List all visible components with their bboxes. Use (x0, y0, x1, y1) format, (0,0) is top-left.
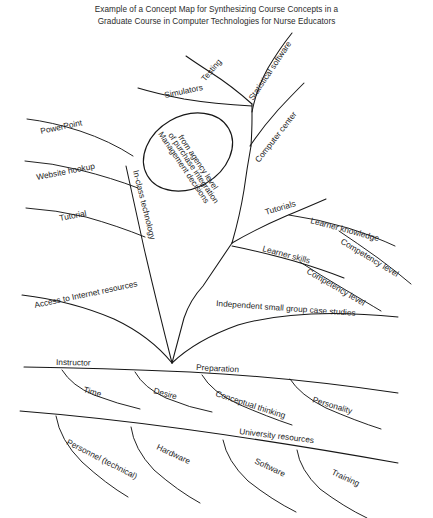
branch-label-personality[interactable]: Personality (311, 394, 354, 416)
branch-label-testing[interactable]: Testing (199, 56, 224, 83)
concept-map-canvas: Management decisions of purchase integra… (0, 0, 433, 518)
branch-group-bottom: University resources Personnel (technica… (20, 411, 398, 518)
branch-group-lower: Instructor Preparation Time Desire Conce… (24, 357, 398, 429)
branch-label-independent-case-studies[interactable]: Independent small group case studies (216, 298, 356, 318)
branch-label-tutorial[interactable]: Tutorial (58, 208, 87, 223)
branch-label-time[interactable]: Time (82, 384, 103, 399)
branch-line-software[interactable] (223, 440, 296, 512)
branch-group-upper-left: In-class technology PowerPoint Website h… (25, 117, 172, 363)
branch-line-university-resources-spine[interactable] (20, 411, 398, 463)
branch-line-in-class-technology[interactable] (126, 166, 172, 363)
branch-label-powerpoint[interactable]: PowerPoint (39, 117, 83, 136)
branch-line-hardware[interactable] (131, 427, 200, 503)
branch-group-mid-right: Tutorials Learner knowledge Competency l… (232, 198, 411, 311)
branch-label-personnel-technical[interactable]: Personnel (technical) (65, 437, 139, 481)
branch-label-instructor[interactable]: Instructor (56, 357, 91, 368)
branch-label-hardware[interactable]: Hardware (155, 442, 192, 466)
branch-label-software[interactable]: Software (253, 456, 287, 479)
trunk-mid-segment (232, 146, 251, 243)
branch-label-access-internet-resources[interactable]: Access to Internet resources (33, 278, 138, 310)
branch-line-independent-case-studies[interactable] (172, 313, 398, 363)
branch-label-simulators[interactable]: Simulators (163, 82, 203, 100)
center-node-line-2: of purchase integration (166, 131, 220, 205)
branch-label-competency-level-lower[interactable]: Competency level (305, 266, 367, 308)
branch-label-training[interactable]: Training (330, 467, 361, 489)
branch-label-website-hookup[interactable]: Website hookup (35, 161, 96, 182)
branch-label-statistical-software[interactable]: Statistical software (246, 39, 293, 102)
branch-label-desire[interactable]: Desire (152, 385, 178, 401)
branch-label-learner-skills[interactable]: Learner skills (261, 243, 311, 265)
branch-label-conceptual-thinking[interactable]: Conceptual thinking (214, 388, 287, 420)
branch-label-computer-center[interactable]: Computer center (253, 109, 299, 164)
branch-label-competency-level-upper[interactable]: Competency level (339, 236, 401, 279)
concept-map-page: Example of a Concept Map for Synthesizin… (0, 0, 433, 518)
